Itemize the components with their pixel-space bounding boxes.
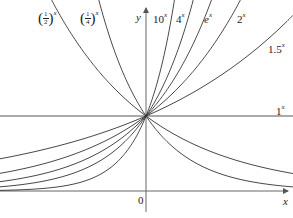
label-1x: 1x — [276, 104, 285, 117]
plot-area — [0, 0, 293, 218]
curve--1-4-x — [98, 0, 293, 187]
label-4x: 4x — [176, 12, 185, 25]
label-ex: ex — [204, 12, 212, 25]
curve--1-2-x — [49, 0, 293, 174]
label-10x: 10x — [153, 12, 167, 25]
origin-label: 0 — [138, 195, 144, 206]
x-axis-label: x — [283, 196, 288, 207]
label-2x: 2x — [237, 12, 246, 25]
label-1-5x: 1.5x — [268, 42, 285, 55]
curve-2-x — [0, 0, 243, 173]
y-axis-label: y — [136, 12, 141, 23]
label-half-x: (12)x — [38, 10, 57, 26]
label-quarter-x: (14)x — [80, 10, 99, 26]
curve-10-x — [0, 0, 175, 190]
